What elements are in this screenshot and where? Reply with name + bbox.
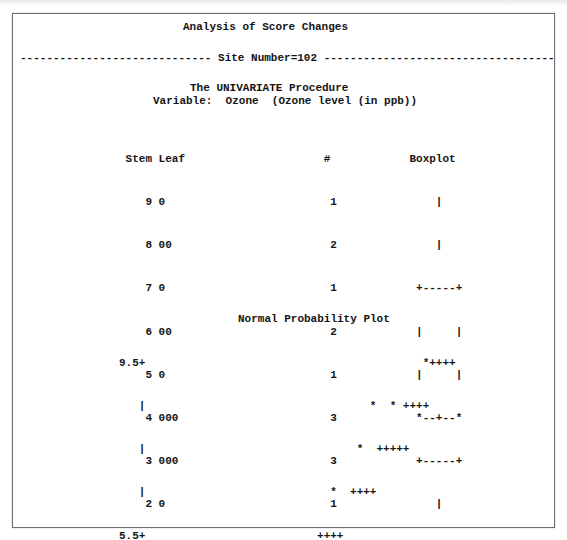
variable-line: Variable: Ozone (Ozone level (in ppb)) [153, 94, 417, 108]
by-group-label: Site Number=102 [211, 52, 323, 64]
plot-row: | * * ++++ [119, 399, 482, 413]
plot-row: | * +++++ [119, 442, 482, 456]
by-group-left-rule: ----------------------------- [20, 52, 211, 64]
plot-row: 5.5+ ++++ [119, 529, 482, 540]
by-group-line: ----------------------------- Site Numbe… [20, 51, 555, 65]
plot-row: 9.5+ *++++ [119, 356, 482, 370]
procedure-title: The UNIVARIATE Procedure [190, 81, 348, 95]
stem-row: 7 0 1 +-----+ [119, 281, 462, 295]
page-top-edge [0, 0, 567, 6]
by-group-right-rule: ----------------------------------- [324, 52, 555, 64]
stem-row: 9 0 1 | [119, 195, 462, 209]
normal-probability-plot: 9.5+ *++++ | * * ++++ | * +++++ | * ++++… [119, 327, 482, 540]
stem-row: 8 00 2 | [119, 238, 462, 252]
normal-plot-title: Normal Probability Plot [238, 312, 390, 326]
plot-row: | * ++++ [119, 485, 482, 499]
stem-leaf-header: Stem Leaf # Boxplot [119, 152, 462, 166]
report-title: Analysis of Score Changes [183, 20, 348, 34]
